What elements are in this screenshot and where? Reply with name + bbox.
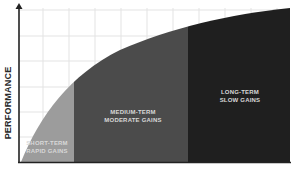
long-term-title: LONG-TERM	[205, 88, 275, 96]
y-axis-label: PERFORMANCE	[1, 58, 15, 148]
label-long-term: LONG-TERM SLOW GAINS	[205, 88, 275, 104]
medium-term-title: MEDIUM-TERM	[88, 108, 178, 116]
label-medium-term: MEDIUM-TERM MODERATE GAINS	[88, 108, 178, 124]
region-short-term	[19, 0, 74, 162]
medium-term-subtitle: MODERATE GAINS	[88, 116, 178, 124]
short-term-title: SHORT-TERM	[21, 139, 73, 147]
y-axis-label-text: PERFORMANCE	[3, 67, 13, 140]
long-term-subtitle: SLOW GAINS	[205, 96, 275, 104]
region-medium-term	[74, 0, 188, 162]
region-long-term	[188, 0, 291, 162]
short-term-subtitle: RAPID GAINS	[21, 147, 73, 155]
y-axis-arrow-icon	[16, 3, 23, 9]
label-short-term: SHORT-TERM RAPID GAINS	[21, 139, 73, 155]
